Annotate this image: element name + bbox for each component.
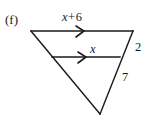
geometry-figure: (f) x+6 x 2 7 — [0, 0, 148, 122]
top-side-length-label: x+6 — [62, 11, 82, 24]
lower-right-side-length-label: 7 — [122, 71, 128, 84]
mid-segment-length-label: x — [90, 43, 96, 56]
triangle-outline — [31, 31, 133, 114]
top-side-constant: 6 — [76, 10, 82, 24]
upper-right-side-length-label: 2 — [135, 41, 141, 54]
part-label: (f) — [5, 13, 18, 26]
top-side-operator: + — [68, 10, 75, 24]
top-side-variable: x — [62, 10, 68, 24]
